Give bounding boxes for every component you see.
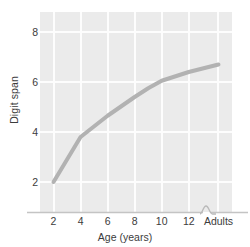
x-axis-title: Age (years) xyxy=(0,231,250,243)
y-axis-tick-label: 6 xyxy=(24,77,38,88)
x-axis-tick-labels: 24681012Adults xyxy=(0,216,250,230)
y-axis-tick-label: 4 xyxy=(24,127,38,138)
y-axis-title-label: Digit span xyxy=(8,76,20,124)
x-axis-tick-label: 8 xyxy=(132,216,138,227)
x-axis-title-label: Age (years) xyxy=(98,231,152,243)
y-axis-tick-label: 2 xyxy=(24,177,38,188)
axis-break-squiggle-icon xyxy=(199,203,217,215)
series-polyline xyxy=(54,65,219,183)
plot-area xyxy=(40,12,232,212)
x-axis-tick-label: Adults xyxy=(204,216,233,227)
x-axis-tick-label: 2 xyxy=(51,216,57,227)
digit-span-line-chart: Digit span 2468 24681012Adults Age (year… xyxy=(0,0,250,247)
x-axis-tick-label: 4 xyxy=(78,216,84,227)
y-axis-tick-label: 8 xyxy=(24,27,38,38)
y-axis-tick-labels: 2468 xyxy=(24,0,38,247)
x-axis-tick-label: 12 xyxy=(183,216,195,227)
x-axis-tick-label: 10 xyxy=(156,216,168,227)
data-series-digit-span xyxy=(40,12,232,212)
x-axis-tick-label: 6 xyxy=(105,216,111,227)
